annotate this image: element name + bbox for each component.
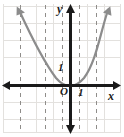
origin-label: O xyxy=(60,86,68,97)
parabola-curve xyxy=(19,10,108,86)
x-axis-arrow-right xyxy=(113,81,121,90)
y-axis-unit-label: 1 xyxy=(58,62,64,73)
graph-figure: y x O 1 1 xyxy=(0,0,124,137)
x-axis-label: x xyxy=(108,90,114,102)
y-axis-label: y xyxy=(57,3,62,15)
x-axis-unit-label: 1 xyxy=(78,87,84,98)
y-axis-arrow-up xyxy=(66,4,75,13)
